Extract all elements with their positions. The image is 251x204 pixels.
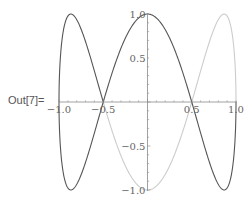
y-tick-label: −1.0 [121,185,145,196]
y-tick-label: 0.5 [130,53,146,64]
x-tick-label: −0.5 [91,104,115,115]
y-tick-label: −0.5 [121,141,145,152]
parametric-plot: −1.0−0.50.51.01.00.5−0.5−1.0 [0,0,251,204]
x-tick-label: 0.5 [184,104,200,115]
x-tick-label: 1.0 [228,104,244,115]
y-tick-label: 1.0 [130,9,146,20]
x-tick-label: −1.0 [47,104,71,115]
